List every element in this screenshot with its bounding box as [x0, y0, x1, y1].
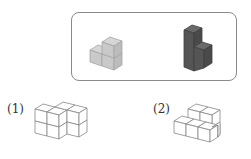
dark-gray-cube-figure [183, 22, 223, 74]
light-gray-cube-figure [88, 30, 138, 75]
question-1-label: (1) [7, 103, 24, 115]
question-2-label: (2) [153, 103, 170, 115]
question-2-cube-figure [172, 101, 236, 153]
question-1-cube-figure [33, 101, 95, 149]
